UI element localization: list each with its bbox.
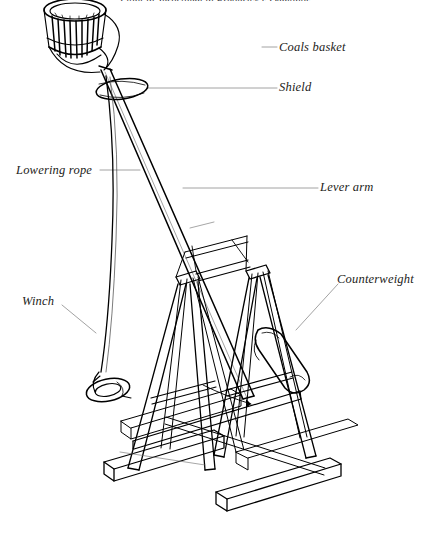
- winch-group: [84, 372, 132, 405]
- basket-band: [47, 38, 103, 45]
- counterweight-band-bottom: [290, 375, 305, 380]
- lowering-rope-group: [101, 76, 117, 372]
- lever-center-line: [105, 72, 247, 398]
- lever-edge-right: [110, 69, 254, 396]
- lever-edge-left: [101, 70, 243, 399]
- label-shield: Shield: [279, 80, 311, 95]
- shield-group: [95, 75, 149, 102]
- coals-basket-group: [44, 0, 106, 58]
- basket-bottom: [49, 47, 101, 55]
- leader-winch: [62, 305, 96, 333]
- label-coals-basket: Coals basket: [279, 40, 346, 55]
- lever-arm-group: [99, 66, 254, 399]
- base-sills: [104, 389, 358, 511]
- label-winch: Winch: [22, 294, 54, 309]
- basket-staves: [52, 14, 99, 58]
- label-counterweight: Counterweight: [337, 272, 414, 287]
- label-lever-arm: Lever arm: [320, 180, 374, 195]
- winch-drum-inner: [94, 381, 122, 398]
- trebuchet-diagram: Light in Jerusalem in Frederick's Demand…: [0, 0, 430, 551]
- winch-drum: [84, 375, 132, 406]
- leader-counterweight: [296, 284, 338, 330]
- basket-rim-inner: [50, 3, 100, 19]
- lever-butt: [243, 396, 254, 399]
- winch-axle: [122, 396, 131, 398]
- shield-disc: [95, 75, 149, 102]
- left-apex-block: [176, 271, 200, 285]
- label-lowering-rope: Lowering rope: [16, 163, 92, 178]
